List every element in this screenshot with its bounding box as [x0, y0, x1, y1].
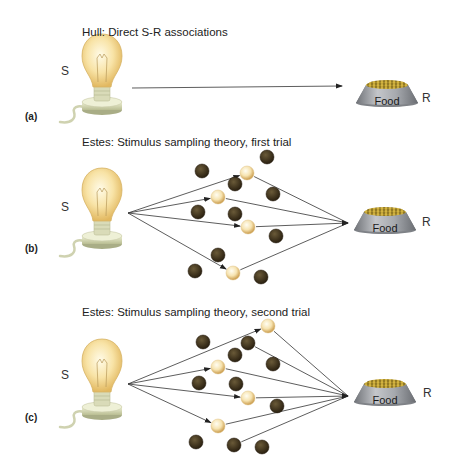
panel-c-lightbulb-icon — [60, 339, 122, 427]
panel-b-sampled-element — [240, 166, 254, 180]
panel-a-sr-arrow — [132, 86, 342, 88]
panel-b-sampled-element — [241, 220, 255, 234]
panel-c-unsampled-element — [189, 435, 203, 449]
panel-c-unsampled-element — [266, 357, 280, 371]
panel-b-unsampled-element — [211, 248, 225, 262]
panel-c-sampled-element — [211, 360, 225, 374]
panel-c-stimulus-label: S — [61, 368, 69, 382]
panel-b-unsampled-element — [260, 150, 274, 164]
panel-c-unsampled-element — [228, 348, 242, 362]
panel-b-sampled-element — [211, 190, 225, 204]
panel-c-unsampled-element — [192, 376, 206, 390]
panel-c-unsampled-element — [255, 440, 269, 454]
panel-c-unsampled-element — [241, 336, 255, 350]
panel-b-unsampled-element — [254, 270, 268, 284]
panel-b-sampled-element — [226, 266, 240, 280]
panel-c-element-to-r-line — [255, 347, 348, 396]
panel-c-label: (c) — [25, 412, 37, 423]
panel-a-title: Hull: Direct S-R associations — [82, 26, 228, 38]
panel-b-s-to-element-arrow — [128, 213, 226, 269]
panel-b-unsampled-element — [188, 264, 202, 278]
panel-b-unsampled-element — [228, 177, 242, 191]
panel-b-stimulus-label: S — [61, 200, 69, 214]
panel-b-element-to-r-line — [256, 223, 348, 227]
panel-b-element-to-r-line — [226, 199, 348, 223]
panel-c-sampled-element — [261, 319, 275, 333]
panel-c-unsampled-element — [227, 438, 241, 452]
panel-c-s-to-element-arrow — [128, 384, 240, 397]
panel-a-food-label: Food — [357, 95, 417, 107]
panel-b-unsampled-element — [195, 164, 209, 178]
panel-a-response-label: R — [422, 91, 431, 105]
panel-b-title: Estes: Stimulus sampling theory, first t… — [82, 136, 291, 148]
panel-c-element-to-r-line — [241, 396, 348, 442]
panel-c-element-to-r-line — [274, 331, 348, 396]
panel-c-element-to-r-line — [256, 396, 348, 398]
panel-b-element-to-r-line — [240, 223, 348, 270]
panel-c-food-label: Food — [355, 394, 415, 406]
panel-b-r-arrowhead — [342, 220, 349, 226]
panel-c-sampled-element — [241, 391, 255, 405]
panel-b-lightbulb-icon — [60, 168, 122, 256]
panel-a-label: (a) — [25, 111, 37, 122]
panel-b-response-label: R — [422, 215, 431, 229]
panel-b-element-to-r-line — [254, 177, 348, 223]
panel-b-label: (b) — [25, 243, 38, 254]
panel-c-title: Estes: Stimulus sampling theory, second … — [82, 306, 310, 318]
panel-c-sampled-element — [211, 419, 225, 433]
panel-c-unsampled-element — [270, 399, 284, 413]
panel-c-unsampled-element — [196, 335, 210, 349]
panel-a-lightbulb-icon — [60, 34, 122, 122]
panel-b-unsampled-element — [266, 187, 280, 201]
panel-b-s-to-element-arrow — [128, 213, 240, 226]
diagram-canvas: Hull: Direct S-R associations (a) S R Fo… — [0, 0, 459, 469]
panel-b-unsampled-element — [191, 205, 205, 219]
panel-b-food-label: Food — [355, 222, 415, 234]
panel-c-unsampled-element — [229, 377, 243, 391]
panel-a-stimulus-label: S — [61, 64, 69, 78]
panel-c-response-label: R — [423, 386, 432, 400]
panel-b-unsampled-element — [269, 229, 283, 243]
panel-b-unsampled-element — [228, 207, 242, 221]
